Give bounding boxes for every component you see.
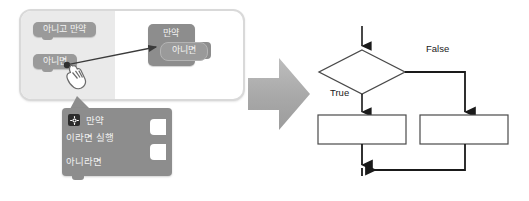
true-label: True	[330, 87, 349, 98]
true-process-box	[318, 115, 406, 144]
false-branch-arrow	[405, 72, 465, 112]
target-if-block-label: 만약	[152, 27, 190, 40]
callout-line-else: 아니라면	[66, 157, 102, 167]
hand-cursor-icon	[62, 58, 92, 92]
block-editor-panel: 아니고 만약 아니면 만약 아니면	[0, 0, 262, 201]
gear-icon[interactable]	[68, 114, 80, 126]
callout-line-then: 이라면 실행	[66, 133, 114, 143]
false-process-box	[420, 115, 508, 144]
callout-block-nub	[72, 176, 84, 180]
palette-block-else-if[interactable]: 아니고 만약	[33, 22, 96, 37]
false-label: False	[426, 43, 449, 54]
palette-block-else-if-label: 아니고 만약	[43, 25, 87, 34]
flowchart: False True	[300, 0, 529, 201]
block-nub	[42, 68, 53, 72]
block-nub	[42, 36, 53, 40]
false-merge-arrow	[366, 144, 465, 170]
callout-mouth-notch	[148, 117, 166, 137]
callout-line-if: 만약	[86, 116, 104, 126]
callout-mouth-notch	[148, 142, 166, 162]
